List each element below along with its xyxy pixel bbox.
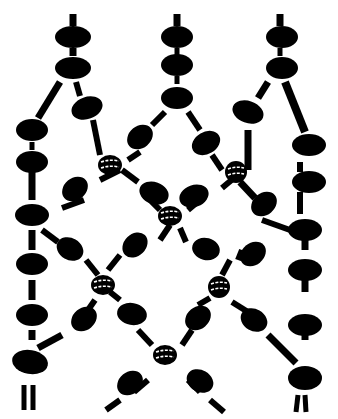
bead — [161, 54, 193, 76]
bead — [16, 119, 48, 141]
bead — [235, 237, 271, 272]
cord-segment — [93, 120, 100, 155]
cord-segment — [285, 82, 305, 132]
bead — [176, 181, 212, 212]
cord-segment — [258, 82, 268, 98]
cord-segment — [296, 395, 298, 412]
cord-segment — [268, 335, 296, 363]
bead — [55, 57, 91, 79]
knot — [153, 345, 177, 365]
bead — [10, 347, 50, 377]
bead — [288, 366, 322, 390]
bead — [16, 304, 48, 326]
bead — [292, 134, 326, 156]
cord-segment — [222, 260, 230, 275]
bead — [16, 151, 48, 173]
cord-segment — [110, 292, 120, 300]
cord-segment — [108, 255, 120, 270]
bead — [229, 96, 267, 128]
bead — [180, 301, 216, 336]
knot — [91, 275, 115, 295]
knot — [208, 276, 230, 298]
cord-segment — [180, 228, 186, 242]
bead — [182, 364, 217, 397]
bead — [190, 235, 223, 263]
bead — [288, 219, 322, 241]
cord-segment — [106, 400, 120, 410]
cord-segment — [42, 230, 58, 242]
cord-segment — [188, 112, 200, 130]
bead — [115, 301, 148, 328]
bead — [161, 26, 193, 48]
cord-segment — [210, 400, 224, 412]
cord-segment — [182, 330, 192, 345]
bead-net-illustration — [0, 0, 338, 419]
cord-segment — [128, 152, 140, 160]
cord-segment — [262, 220, 290, 230]
cord-segment — [86, 260, 98, 275]
cord-segment — [76, 82, 80, 96]
cord-segment — [122, 170, 138, 182]
cord-segment — [305, 395, 306, 412]
bead — [68, 92, 106, 124]
bead — [52, 232, 87, 265]
bead — [16, 253, 48, 275]
bead — [188, 126, 225, 160]
cord-segment — [160, 225, 170, 240]
bead — [288, 314, 322, 336]
cord-segment — [152, 112, 165, 125]
bead — [292, 171, 326, 193]
knot — [225, 161, 247, 183]
bead — [136, 178, 172, 209]
bead — [117, 227, 152, 262]
bead — [15, 204, 49, 226]
cord-segment — [198, 298, 210, 305]
cord-segment — [38, 82, 60, 118]
bead — [161, 87, 193, 109]
bead — [66, 302, 102, 337]
cord-segment — [240, 182, 255, 198]
cord-segment — [38, 335, 62, 348]
bead — [288, 259, 322, 281]
bead — [55, 26, 91, 48]
bead — [266, 26, 298, 48]
cord-segment — [212, 155, 222, 170]
bead — [112, 366, 148, 401]
knot — [98, 155, 122, 175]
knot — [158, 206, 182, 226]
bead — [266, 57, 298, 79]
cord-segment — [138, 330, 152, 345]
